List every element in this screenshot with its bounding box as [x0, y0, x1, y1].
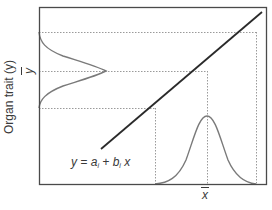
y-mean-symbol: y [22, 68, 36, 74]
equation-plus: + [99, 155, 113, 169]
x-mean-bar [201, 187, 209, 188]
x-mean-symbol: x [202, 188, 208, 202]
equation-x: x [121, 155, 130, 169]
x-mean-label: x [200, 189, 210, 201]
allometry-diagram: Organ trait (y) y x y = ai + bi x [0, 0, 272, 210]
diagram-canvas [0, 0, 272, 210]
regression-equation: y = ai + bi x [71, 156, 130, 169]
y-mean-bar [21, 67, 22, 75]
vertical-guides [156, 32, 257, 184]
x-distribution-curve [155, 116, 256, 184]
y-axis-label: Organ trait (y) [3, 60, 15, 134]
y-distribution-curve [39, 32, 106, 108]
y-mean-label: y [23, 65, 37, 77]
equation-equals: = [77, 155, 91, 169]
